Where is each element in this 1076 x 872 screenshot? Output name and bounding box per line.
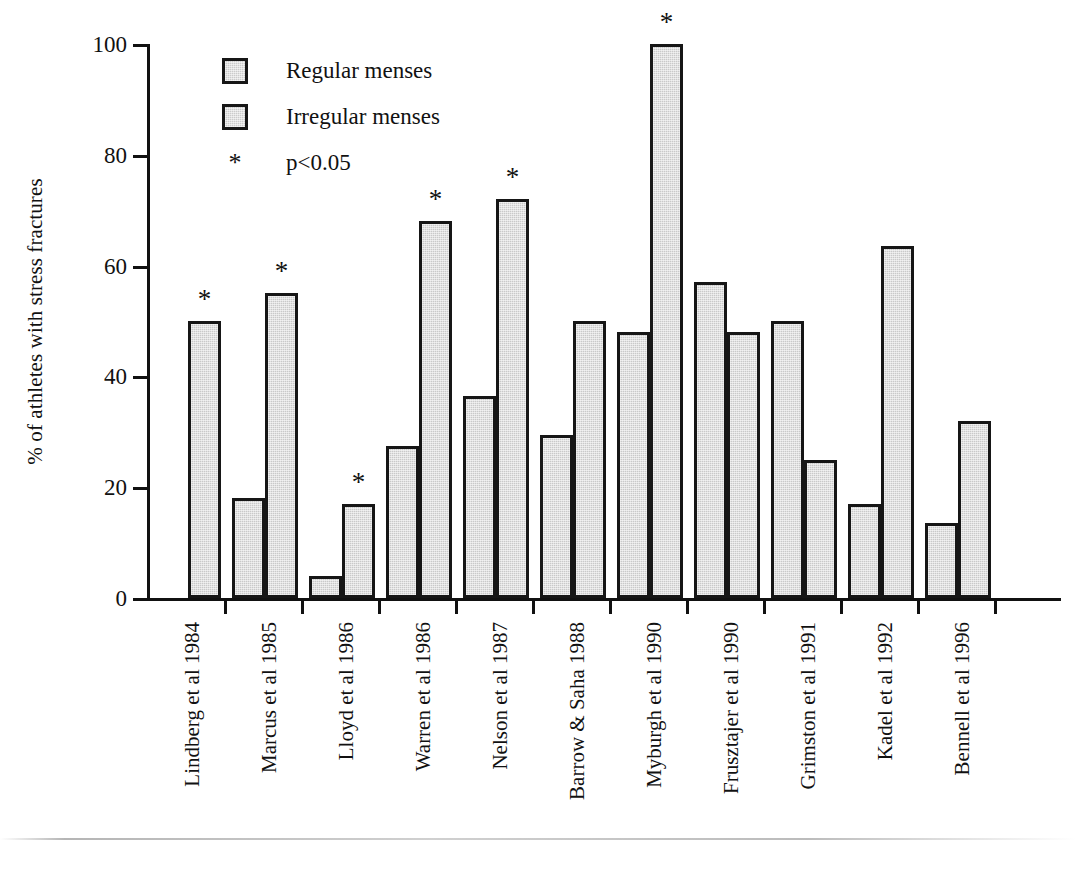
y-tick-label-80: 80	[75, 144, 127, 167]
significance-asterisk: *	[342, 469, 375, 496]
y-tick-20	[133, 487, 148, 490]
y-tick-0	[133, 598, 148, 601]
scan-edge-artifact	[0, 838, 1076, 840]
legend: Regular menses Irregular menses * p<0.05	[218, 48, 548, 186]
x-tick	[532, 598, 535, 614]
bar-regular-menses	[617, 332, 650, 598]
y-tick-label-20: 20	[75, 476, 127, 499]
x-category-label: Marcus et al 1985	[254, 622, 284, 852]
bar-regular-menses	[771, 321, 804, 598]
x-category-label: Myburgh et al 1990	[639, 622, 669, 852]
x-tick	[840, 598, 843, 614]
bar-irregular-menses	[496, 199, 529, 598]
x-tick	[763, 598, 766, 614]
x-category-label: Frusztajer et al 1990	[716, 622, 746, 852]
x-category-label: Kadel et al 1992	[870, 622, 900, 852]
x-category-label-text: Myburgh et al 1990	[643, 622, 664, 788]
x-tick	[455, 598, 458, 614]
x-category-label-text: Lindberg et al 1984	[181, 622, 202, 787]
x-tick	[686, 598, 689, 614]
bar-irregular-menses	[650, 44, 683, 598]
bar-regular-menses	[232, 498, 265, 598]
legend-item-significance: * p<0.05	[218, 140, 548, 186]
bar-irregular-menses	[804, 460, 837, 599]
x-tick	[994, 598, 997, 614]
bar-group: *	[615, 44, 692, 598]
bar-irregular-menses	[881, 246, 914, 598]
x-category-label: Lindberg et al 1984	[177, 622, 207, 852]
x-tick	[609, 598, 612, 614]
bar-irregular-menses	[727, 332, 760, 598]
x-category-label-text: Barrow & Saha 1988	[566, 622, 587, 800]
x-axis-line	[137, 598, 1061, 601]
bar-regular-menses	[309, 576, 342, 598]
x-category-label: Nelson et al 1987	[485, 622, 515, 852]
bar-group	[769, 44, 846, 598]
legend-item-irregular-menses: Irregular menses	[218, 94, 548, 140]
y-axis-title: % of athletes with stress fractures	[10, 44, 60, 598]
legend-swatch-icon	[222, 58, 248, 84]
significance-asterisk: *	[188, 286, 221, 313]
x-category-label: Grimston et al 1991	[793, 622, 823, 852]
bar-regular-menses	[848, 504, 881, 598]
legend-label-irregular-menses: Irregular menses	[286, 104, 440, 130]
bar-irregular-menses	[958, 421, 991, 598]
bar-regular-menses	[925, 523, 958, 598]
x-tick	[224, 598, 227, 614]
bar-chart-figure: % of athletes with stress fractures 100 …	[0, 0, 1076, 872]
x-tick	[301, 598, 304, 614]
bar-irregular-menses	[573, 321, 606, 598]
x-tick	[917, 598, 920, 614]
bar-regular-menses	[540, 435, 573, 598]
y-tick-40	[133, 376, 148, 379]
x-tick	[378, 598, 381, 614]
bar-group	[846, 44, 923, 598]
y-tick-label-100: 100	[75, 33, 127, 56]
bar-group	[692, 44, 769, 598]
significance-asterisk: *	[265, 258, 298, 285]
y-tick-100	[133, 44, 148, 47]
bar-regular-menses	[463, 396, 496, 598]
y-axis-title-text: % of athletes with stress fractures	[23, 178, 48, 464]
legend-swatch-icon	[222, 104, 248, 130]
x-category-label-text: Warren et al 1986	[412, 622, 433, 771]
legend-item-regular-menses: Regular menses	[218, 48, 548, 94]
y-axis-line	[147, 44, 150, 599]
x-category-label-text: Frusztajer et al 1990	[720, 622, 741, 794]
bar-group	[538, 44, 615, 598]
x-category-label: Warren et al 1986	[408, 622, 438, 852]
x-category-label: Barrow & Saha 1988	[562, 622, 592, 852]
y-tick-label-40: 40	[75, 365, 127, 388]
x-category-label: Bennell et al 1996	[947, 622, 977, 852]
x-category-label-text: Lloyd et al 1986	[335, 622, 356, 760]
y-tick-label-0: 0	[75, 587, 127, 610]
legend-label-significance: p<0.05	[286, 150, 351, 176]
legend-label-regular-menses: Regular menses	[286, 58, 432, 84]
significance-asterisk: *	[650, 9, 683, 36]
bar-regular-menses	[694, 282, 727, 598]
bar-irregular-menses	[265, 293, 298, 598]
bar-irregular-menses	[342, 504, 375, 598]
bar-regular-menses	[386, 446, 419, 598]
bar-irregular-menses	[188, 321, 221, 598]
x-category-label-text: Nelson et al 1987	[489, 622, 510, 770]
y-tick-80	[133, 155, 148, 158]
x-category-label-text: Kadel et al 1992	[874, 622, 895, 760]
significance-asterisk: *	[419, 186, 452, 213]
asterisk-icon: *	[222, 150, 248, 176]
x-category-label: Lloyd et al 1986	[331, 622, 361, 852]
y-tick-60	[133, 266, 148, 269]
x-category-label-text: Bennell et al 1996	[951, 622, 972, 775]
bar-group	[923, 44, 1000, 598]
y-tick-label-60: 60	[75, 255, 127, 278]
x-category-label-text: Grimston et al 1991	[797, 622, 818, 789]
bar-irregular-menses	[419, 221, 452, 598]
x-category-label-text: Marcus et al 1985	[258, 622, 279, 773]
